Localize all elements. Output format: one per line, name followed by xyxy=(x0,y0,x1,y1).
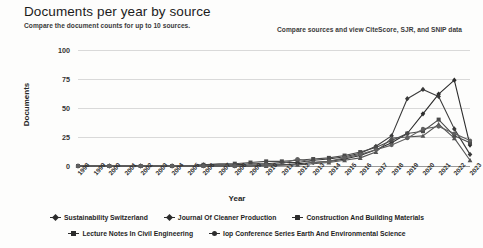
legend-row-1: Lecture Notes In Civil EngineeringIop Co… xyxy=(0,225,474,241)
page-subtitle: Compare the document counts for up to 10… xyxy=(24,22,190,29)
compare-sources-link[interactable]: Compare sources and view CiteScore, SJR,… xyxy=(277,26,462,33)
x-axis-label: Year xyxy=(0,194,474,203)
legend-item-iop-conference-series-earth-and-environmental-science[interactable]: Iop Conference Series Earth And Environm… xyxy=(209,230,406,237)
legend-item-sustainability-switzerland[interactable]: Sustainability Switzerland xyxy=(50,214,148,221)
legend-item-journal-of-cleaner-production[interactable]: Journal Of Cleaner Production xyxy=(164,214,277,221)
chart-plot-area: Documents 0255075100 1998199920002001200… xyxy=(0,36,474,206)
diamond-marker-icon xyxy=(50,214,61,221)
legend-item-label: Sustainability Switzerland xyxy=(64,214,148,221)
circle-marker-icon xyxy=(209,230,220,237)
square-marker-icon xyxy=(292,214,303,221)
diamond-marker-icon xyxy=(164,214,175,221)
series-2 xyxy=(76,118,472,168)
legend-item-lecture-notes-in-civil-engineering[interactable]: Lecture Notes In Civil Engineering xyxy=(68,230,193,237)
legend-row-0: Sustainability SwitzerlandJournal Of Cle… xyxy=(0,209,474,225)
triangle-marker-icon xyxy=(68,230,79,237)
legend-item-label: Journal Of Cleaner Production xyxy=(178,214,277,221)
series-1 xyxy=(76,87,473,169)
legend-item-label: Lecture Notes In Civil Engineering xyxy=(82,230,193,237)
series-0 xyxy=(76,78,473,169)
chart-legend: Sustainability SwitzerlandJournal Of Cle… xyxy=(0,209,474,241)
legend-item-label: Iop Conference Series Earth And Environm… xyxy=(223,230,406,237)
legend-item-label: Construction And Building Materials xyxy=(306,214,424,221)
legend-item-construction-and-building-materials[interactable]: Construction And Building Materials xyxy=(292,214,424,221)
page-title: Documents per year by source xyxy=(24,4,211,19)
